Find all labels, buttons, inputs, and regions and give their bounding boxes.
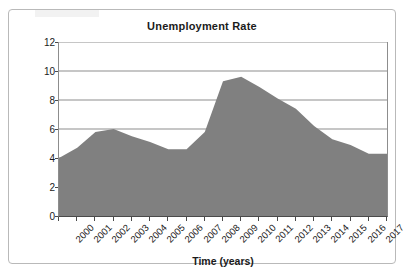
y-axis-tick-labels: 024681012 <box>17 42 55 217</box>
x-tick-label: 2003 <box>128 222 151 245</box>
x-tick-mark <box>204 217 205 221</box>
plot-area <box>58 42 388 217</box>
y-tick-label: 10 <box>25 66 55 77</box>
x-tick-label: 2005 <box>164 222 187 245</box>
x-tick-mark <box>76 217 77 221</box>
y-tick-label: 0 <box>25 211 55 222</box>
x-tick-label: 2017 <box>383 222 406 245</box>
figure-frame: Unemployment Rate Unemployment Rate (per… <box>8 9 396 264</box>
x-tick-label: 2015 <box>347 222 370 245</box>
x-tick-mark <box>350 217 351 221</box>
area-chart-svg <box>59 42 387 216</box>
x-tick-label: 2013 <box>310 222 333 245</box>
x-tick-mark <box>167 217 168 221</box>
x-tick-mark <box>277 217 278 221</box>
chart-title: Unemployment Rate <box>9 20 395 32</box>
x-tick-mark <box>113 217 114 221</box>
y-tick-label: 6 <box>25 124 55 135</box>
x-tick-mark <box>94 217 95 221</box>
x-tick-mark <box>240 217 241 221</box>
x-tick-label: 2014 <box>328 222 351 245</box>
x-tick-label: 2002 <box>110 222 133 245</box>
x-tick-label: 2012 <box>292 222 315 245</box>
x-tick-label: 2016 <box>365 222 388 245</box>
x-tick-label: 2001 <box>91 222 114 245</box>
x-axis-tick-labels: 2000200120022003200420052006200720082009… <box>58 222 398 256</box>
x-tick-mark <box>386 217 387 221</box>
x-tick-mark <box>58 217 59 221</box>
x-tick-mark <box>149 217 150 221</box>
x-tick-mark <box>331 217 332 221</box>
x-tick-mark <box>186 217 187 221</box>
x-tick-label: 2004 <box>146 222 169 245</box>
area-series-fill <box>59 77 387 216</box>
x-tick-label: 2000 <box>73 222 96 245</box>
x-tick-mark <box>258 217 259 221</box>
x-tick-label: 2009 <box>237 222 260 245</box>
x-tick-mark <box>295 217 296 221</box>
x-tick-label: 2007 <box>201 222 224 245</box>
y-tick-label: 4 <box>25 153 55 164</box>
y-tick-label: 2 <box>25 182 55 193</box>
x-tick-mark <box>368 217 369 221</box>
x-axis-title: Time (years) <box>58 255 388 267</box>
x-tick-label: 2006 <box>183 222 206 245</box>
x-tick-mark <box>222 217 223 221</box>
scan-artifact <box>35 10 99 17</box>
x-tick-mark <box>313 217 314 221</box>
y-tick-label: 8 <box>25 95 55 106</box>
x-tick-mark <box>131 217 132 221</box>
y-tick-label: 12 <box>25 37 55 48</box>
x-tick-label: 2011 <box>273 222 295 244</box>
x-tick-label: 2008 <box>219 222 242 245</box>
